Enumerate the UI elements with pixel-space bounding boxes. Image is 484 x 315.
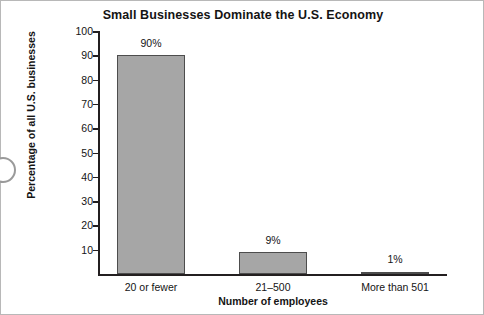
x-tick-label-20-or-fewer: 20 or fewer — [125, 281, 178, 293]
bar-value-20-or-fewer: 90% — [140, 37, 161, 49]
y-tick-label-30: 30 — [67, 195, 93, 207]
y-axis-tick-labels: 100 90 80 70 60 50 40 30 20 10 — [61, 31, 93, 274]
plot-area: 90% 9% 1% — [99, 31, 447, 274]
bar-value-more-than-501: 1% — [387, 253, 402, 265]
x-axis-line — [98, 274, 447, 276]
y-tick-label-70: 70 — [67, 98, 93, 110]
y-tick-label-20: 20 — [67, 219, 93, 231]
page-edge-marker-icon — [0, 157, 16, 183]
x-tick-label-more-than-501: More than 501 — [361, 281, 429, 293]
y-tick-label-100: 100 — [67, 25, 93, 37]
x-axis-title: Number of employees — [99, 295, 447, 307]
y-tick-label-50: 50 — [67, 147, 93, 159]
bar-more-than-501 — [361, 272, 429, 274]
bar-21-500 — [239, 252, 307, 274]
y-tick-label-10: 10 — [67, 244, 93, 256]
bar-20-or-fewer — [117, 55, 185, 274]
bar-chart-figure: Small Businesses Dominate the U.S. Econo… — [0, 0, 484, 315]
y-tick-label-80: 80 — [67, 74, 93, 86]
x-tick-label-21-500: 21–500 — [255, 281, 290, 293]
y-axis-title: Percentage of all U.S. businesses — [25, 15, 37, 215]
chart-title: Small Businesses Dominate the U.S. Econo… — [1, 8, 484, 22]
y-tick-label-90: 90 — [67, 49, 93, 61]
y-tick-label-40: 40 — [67, 171, 93, 183]
bar-value-21-500: 9% — [265, 234, 280, 246]
y-tick-label-60: 60 — [67, 122, 93, 134]
